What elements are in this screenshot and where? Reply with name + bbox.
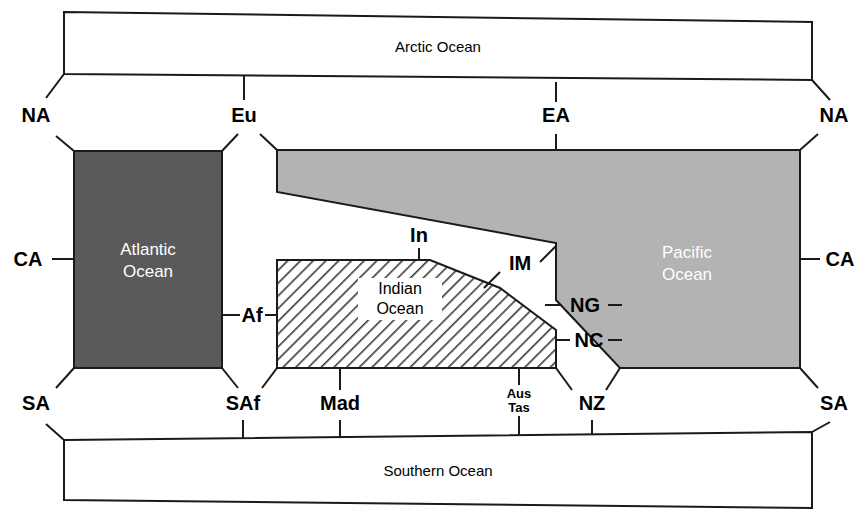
connector-nz-pacific bbox=[606, 368, 620, 390]
label-af: Af bbox=[241, 304, 262, 326]
connector-eu-pacific bbox=[260, 134, 277, 150]
connector-sa-right-pacific bbox=[800, 368, 818, 388]
diagram-canvas: Arctic Ocean Southern Ocean Atlantic Oce… bbox=[0, 0, 866, 525]
connector-saf-atlantic bbox=[222, 368, 238, 388]
connector-na-right-pacific bbox=[800, 134, 818, 150]
label-ea: EA bbox=[542, 104, 570, 126]
label-mad: Mad bbox=[320, 392, 360, 414]
connector-sa-left-atlantic bbox=[56, 368, 74, 388]
connector-na-left-arctic bbox=[46, 74, 64, 98]
connector-na-left-atlantic bbox=[56, 136, 74, 151]
atlantic-ocean-label-line2: Ocean bbox=[123, 262, 173, 281]
label-nz: NZ bbox=[579, 392, 606, 414]
southern-ocean-label: Southern Ocean bbox=[383, 462, 492, 479]
label-ng: NG bbox=[570, 294, 600, 316]
ocean-connectivity-diagram: Arctic Ocean Southern Ocean Atlantic Oce… bbox=[0, 0, 866, 525]
pacific-ocean-label-line1: Pacific bbox=[662, 243, 713, 262]
label-na-left: NA bbox=[22, 104, 51, 126]
label-nc: NC bbox=[575, 329, 604, 351]
arctic-ocean-label: Arctic Ocean bbox=[395, 38, 481, 55]
label-aus: Aus bbox=[507, 386, 532, 401]
label-im: IM bbox=[509, 252, 531, 274]
label-sa-right: SA bbox=[820, 392, 848, 414]
indian-ocean-group: Indian Ocean Indian Ocean bbox=[277, 260, 556, 368]
southern-ocean-group: Southern Ocean bbox=[64, 432, 812, 508]
connector-im-pacific bbox=[540, 246, 556, 262]
arctic-ocean-group: Arctic Ocean bbox=[64, 12, 812, 80]
connector-na-right-arctic bbox=[812, 80, 830, 100]
label-sa-left: SA bbox=[22, 392, 50, 414]
top-margin-connectors bbox=[46, 74, 830, 151]
bottom-margin-connectors bbox=[46, 368, 830, 440]
label-ca-left: CA bbox=[14, 248, 43, 270]
label-na-right: NA bbox=[820, 104, 849, 126]
connector-sa-left-southern bbox=[46, 424, 64, 440]
pacific-ocean-label-line2: Ocean bbox=[662, 265, 712, 284]
connector-nz-indian bbox=[556, 368, 572, 390]
label-saf: SAf bbox=[226, 392, 261, 414]
atlantic-ocean-group: Atlantic Ocean bbox=[74, 151, 222, 368]
atlantic-ocean-shape bbox=[74, 151, 222, 368]
connector-sa-right-southern bbox=[812, 422, 830, 432]
label-eu: Eu bbox=[231, 104, 257, 126]
indian-ocean-label-line1-top: Indian bbox=[378, 280, 422, 297]
indian-ocean-label-line2-top: Ocean bbox=[376, 300, 423, 317]
connector-saf-indian bbox=[262, 368, 277, 388]
label-tas: Tas bbox=[508, 400, 529, 415]
atlantic-ocean-label-line1: Atlantic bbox=[120, 240, 176, 259]
label-ca-right: CA bbox=[826, 248, 855, 270]
label-in: In bbox=[410, 224, 428, 246]
connector-eu-atlantic bbox=[222, 134, 238, 151]
